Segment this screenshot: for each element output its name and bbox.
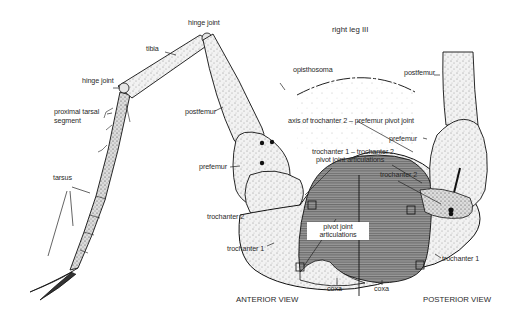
label-posterior-view: POSTERIOR VIEW xyxy=(423,296,491,304)
label-trochanter2-left: trochanter 2 xyxy=(207,213,244,221)
leg-anatomy-diagram xyxy=(0,0,506,320)
figure-title: right leg III xyxy=(332,26,368,34)
label-trochanter1-right: trochanter 1 xyxy=(442,255,479,263)
label-hinge-joint-mid: hinge joint xyxy=(82,77,114,85)
label-coxa-left: coxa xyxy=(327,285,342,293)
label-opisthosoma: opisthosoma xyxy=(293,66,333,74)
postfemur-left-shape xyxy=(203,34,264,148)
label-prefemur-right: prefemur xyxy=(389,135,417,143)
label-prefemur-left: prefemur xyxy=(199,163,227,171)
label-hinge-joint-top: hinge joint xyxy=(188,19,220,27)
label-coxa-right: coxa xyxy=(374,285,389,293)
tibia-shape xyxy=(118,33,212,98)
label-t1t2-line2: pivot joint articulations xyxy=(316,156,384,164)
label-anterior-view: ANTERIOR VIEW xyxy=(236,296,298,304)
label-axis-pivot-joint: axis of trochanter 2 – prefemur pivot jo… xyxy=(288,117,414,125)
label-proximal-tarsal-segment-2: segment xyxy=(54,117,81,125)
label-postfemur-right: postfemur xyxy=(404,69,435,77)
label-tibia: tibia xyxy=(146,45,159,53)
postfemur-right-shape xyxy=(443,52,478,125)
label-trochanter1-left: trochanter 1 xyxy=(227,245,264,253)
label-tarsus: tarsus xyxy=(53,174,72,182)
label-proximal-tarsal-segment-1: proximal tarsal xyxy=(54,108,99,116)
label-trochanter2-right: trochanter 2 xyxy=(380,171,417,179)
label-postfemur-left: postfemur xyxy=(185,108,216,116)
label-pivot-joint-articulations: pivot joint articulations xyxy=(307,222,369,240)
